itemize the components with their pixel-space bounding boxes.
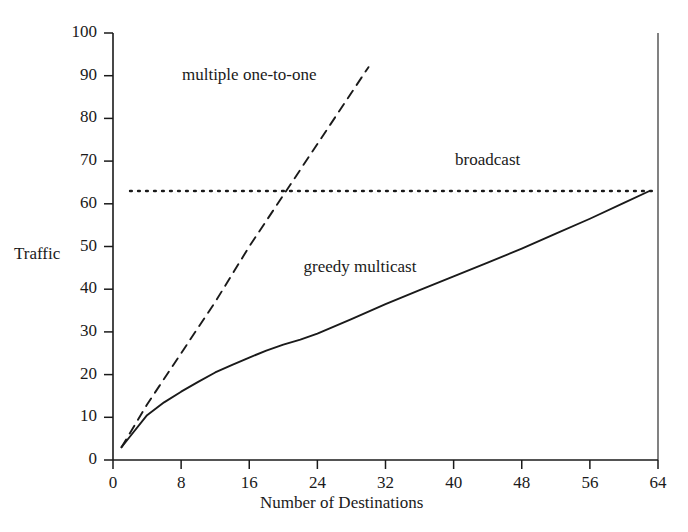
y-tick-label: 40 (45, 278, 97, 298)
x-tick-label: 32 (356, 473, 416, 493)
x-axis-title: Number of Destinations (260, 493, 423, 513)
y-tick-label: 70 (45, 150, 97, 170)
x-tick-label: 16 (219, 473, 279, 493)
y-tick-label: 80 (45, 107, 97, 127)
x-axis-ticks (113, 460, 658, 469)
y-tick-label: 30 (45, 321, 97, 341)
series-label-broadcast: broadcast (455, 150, 520, 170)
y-tick-label: 0 (45, 449, 97, 469)
y-tick-label: 90 (45, 65, 97, 85)
y-tick-label: 10 (45, 406, 97, 426)
x-tick-label: 24 (287, 473, 347, 493)
x-tick-label: 56 (560, 473, 620, 493)
series-label-multiple-one-to-one: multiple one-to-one (182, 65, 317, 85)
y-axis-title: Traffic (14, 244, 60, 264)
x-tick-label: 40 (424, 473, 484, 493)
x-tick-label: 0 (83, 473, 143, 493)
y-axis-ticks (104, 33, 113, 460)
series-line-greedy-multicast (122, 191, 650, 447)
y-tick-label: 60 (45, 193, 97, 213)
x-tick-label: 48 (492, 473, 552, 493)
series-label-greedy-multicast: greedy multicast (304, 257, 417, 277)
y-tick-label: 100 (45, 22, 97, 42)
x-tick-label: 64 (628, 473, 688, 493)
chart-figure: 0102030405060708090100 0816243240485664 … (0, 0, 688, 532)
x-tick-label: 8 (151, 473, 211, 493)
y-tick-label: 20 (45, 364, 97, 384)
